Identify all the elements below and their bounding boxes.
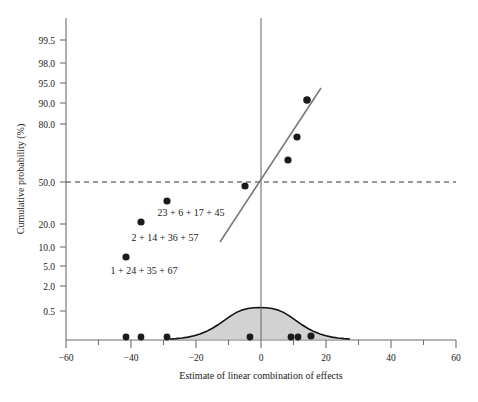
x-axis-title: Estimate of linear combination of effect… [179,370,342,381]
y-tick-label: 95.0 [38,79,55,89]
y-tick-label: 99.5 [38,36,55,46]
chart-canvas: 99.5 98.0 95.0 90.0 80.0 50.0 20.0 10.0 … [0,0,478,402]
fitted-reference-line [220,88,321,242]
data-point [122,253,129,260]
x-axis-tick-labels: −60 −40 −20 0 20 40 60 [59,353,461,363]
y-tick-label: 80.0 [38,120,55,130]
data-point [307,332,314,339]
point-annotation: 23 + 6 + 17 + 45 [158,207,225,218]
x-tick-label: −40 [124,353,139,363]
data-point [137,218,144,225]
data-point [284,156,291,163]
data-point [247,334,254,341]
x-tick-label: −60 [59,353,74,363]
data-point [295,334,302,341]
normal-probability-plot-figure: 99.5 98.0 95.0 90.0 80.0 50.0 20.0 10.0 … [0,0,478,402]
x-tick-label: 20 [321,353,331,363]
y-tick-label: 2.0 [43,282,55,292]
y-tick-label: 90.0 [38,99,55,109]
data-point [293,133,300,140]
y-tick-label: 20.0 [38,220,55,230]
data-point [123,334,130,341]
y-axis-title: Cumulative probability (%) [15,124,27,235]
data-point [303,96,311,104]
x-tick-label: 0 [259,353,264,363]
y-tick-label: 50.0 [38,178,55,188]
x-tick-label: −20 [189,353,204,363]
y-tick-label: 5.0 [43,262,55,272]
point-annotation: 2 + 14 + 36 + 57 [132,232,199,243]
data-point [163,197,170,204]
x-tick-label: 60 [451,353,461,363]
data-point [164,334,171,341]
y-tick-label: 0.5 [43,307,55,317]
x-tick-label: 40 [386,353,396,363]
data-point [241,182,248,189]
data-point [138,334,145,341]
y-axis-tick-labels: 99.5 98.0 95.0 90.0 80.0 50.0 20.0 10.0 … [38,36,55,317]
point-annotation: 1 + 24 + 35 + 67 [111,265,178,276]
y-axis-ticks [60,40,66,311]
data-point [288,334,295,341]
x-axis-ticks [66,340,456,348]
y-tick-label: 10.0 [38,243,55,253]
y-tick-label: 98.0 [38,59,55,69]
